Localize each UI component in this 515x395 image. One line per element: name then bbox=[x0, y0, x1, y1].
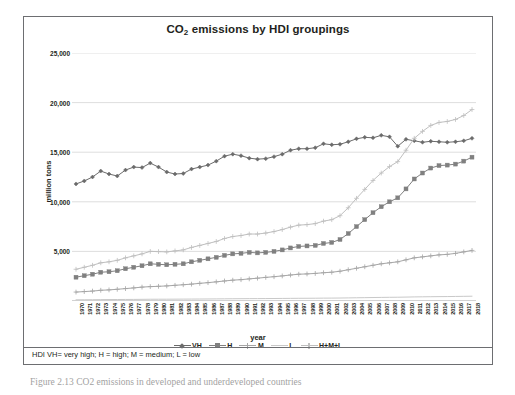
legend-item-l[interactable]: L bbox=[271, 341, 294, 350]
data-point-marker bbox=[107, 287, 112, 292]
data-point-marker bbox=[90, 263, 95, 268]
data-point-marker bbox=[437, 252, 442, 257]
data-point-marker bbox=[173, 283, 178, 288]
data-point-marker bbox=[321, 270, 326, 275]
data-point-marker bbox=[322, 142, 326, 146]
legend-item-m[interactable]: M bbox=[239, 341, 263, 350]
data-point-marker bbox=[379, 205, 383, 209]
x-axis-tick-label: 1993 bbox=[268, 303, 274, 315]
data-point-marker bbox=[231, 152, 235, 156]
data-point-marker bbox=[272, 249, 276, 253]
y-axis-tick-label: 25,000 bbox=[28, 50, 70, 57]
x-axis-tick-label: 1981 bbox=[169, 303, 175, 315]
x-axis-tick-label: 2017 bbox=[466, 303, 472, 315]
legend-item-h[interactable]: H bbox=[209, 341, 233, 350]
data-point-marker bbox=[115, 258, 120, 263]
data-point-marker bbox=[181, 262, 185, 266]
data-point-marker bbox=[115, 269, 119, 273]
data-point-marker bbox=[305, 244, 309, 248]
data-point-marker bbox=[239, 251, 243, 255]
chart-title-main: CO bbox=[166, 23, 183, 35]
x-axis-tick-label: 2011 bbox=[417, 303, 423, 314]
x-axis-tick-label: 1994 bbox=[277, 303, 283, 315]
data-point-marker bbox=[288, 273, 293, 278]
data-point-marker bbox=[362, 264, 367, 269]
data-point-marker bbox=[296, 272, 301, 277]
data-point-marker bbox=[437, 140, 441, 144]
x-axis-tick-label: 1992 bbox=[260, 303, 266, 315]
chart-figure-frame: CO2 emissions by HDI groupings million t… bbox=[23, 16, 493, 365]
data-point-marker bbox=[330, 240, 334, 244]
data-point-marker bbox=[388, 200, 392, 204]
x-axis-tick-label: 2001 bbox=[334, 303, 340, 315]
data-point-marker bbox=[131, 286, 136, 291]
data-point-marker bbox=[223, 253, 227, 257]
data-point-marker bbox=[322, 241, 326, 245]
data-point-marker bbox=[173, 262, 177, 266]
data-point-marker bbox=[173, 249, 178, 254]
data-point-marker bbox=[445, 163, 449, 167]
data-point-marker bbox=[256, 157, 260, 161]
data-point-marker bbox=[379, 133, 383, 137]
chart-footnote: HDI VH= very high; H = high; M = medium;… bbox=[32, 350, 200, 359]
data-point-marker bbox=[173, 172, 177, 176]
x-axis-tick-label: 2009 bbox=[400, 303, 406, 315]
data-point-marker bbox=[98, 260, 103, 265]
data-point-marker bbox=[107, 270, 111, 274]
y-axis-tick-label: 15,000 bbox=[28, 149, 70, 156]
data-point-marker bbox=[363, 135, 367, 139]
data-point-marker bbox=[90, 289, 95, 294]
data-point-marker bbox=[429, 166, 433, 170]
data-point-marker bbox=[321, 219, 326, 224]
data-point-marker bbox=[421, 171, 425, 175]
data-point-marker bbox=[355, 225, 359, 229]
data-point-marker bbox=[197, 281, 202, 286]
x-axis-tick-label: 1970 bbox=[79, 303, 85, 315]
legend-item-h-m-l[interactable]: H+M+L bbox=[301, 341, 343, 350]
data-point-marker bbox=[107, 259, 112, 264]
x-axis-tick-label: 2002 bbox=[343, 303, 349, 315]
data-point-marker bbox=[429, 139, 433, 143]
data-point-marker bbox=[140, 285, 145, 290]
data-point-marker bbox=[264, 250, 268, 254]
legend-swatch-icon bbox=[301, 341, 318, 350]
data-point-marker bbox=[206, 241, 211, 246]
x-axis-tick-label: 2008 bbox=[392, 303, 398, 315]
x-axis-tick-label: 1979 bbox=[153, 303, 159, 315]
data-point-marker bbox=[454, 140, 458, 144]
data-point-marker bbox=[148, 249, 153, 254]
x-axis-tick-label: 1989 bbox=[235, 303, 241, 315]
legend-item-vh[interactable]: VH bbox=[174, 341, 202, 350]
data-point-marker bbox=[239, 154, 243, 158]
x-axis-tick-label: 2014 bbox=[442, 303, 448, 315]
x-axis-tick-label: 1996 bbox=[293, 303, 299, 315]
data-point-marker bbox=[305, 147, 309, 151]
data-point-marker bbox=[296, 223, 301, 228]
data-point-marker bbox=[396, 196, 400, 200]
data-point-marker bbox=[98, 288, 103, 293]
y-axis-tick-label: 10,000 bbox=[28, 198, 70, 205]
data-point-marker bbox=[280, 248, 284, 252]
data-point-marker bbox=[363, 218, 367, 222]
data-point-marker bbox=[330, 143, 334, 147]
data-point-marker bbox=[445, 252, 450, 257]
x-axis-tick-label: 1982 bbox=[178, 303, 184, 315]
series-l bbox=[76, 296, 472, 300]
data-point-marker bbox=[140, 251, 145, 256]
data-point-marker bbox=[115, 287, 120, 292]
x-axis-tick-label: 1997 bbox=[301, 303, 307, 315]
series-line bbox=[76, 157, 472, 277]
data-point-marker bbox=[255, 276, 260, 281]
data-point-marker bbox=[346, 267, 351, 272]
data-point-marker bbox=[470, 136, 474, 140]
x-axis-tick-label: 1983 bbox=[186, 303, 192, 315]
x-axis-tick-label: 1980 bbox=[161, 303, 167, 315]
data-point-marker bbox=[231, 252, 235, 256]
data-point-marker bbox=[247, 156, 251, 160]
data-point-marker bbox=[338, 269, 343, 274]
data-point-marker bbox=[197, 243, 202, 248]
data-point-marker bbox=[264, 157, 268, 161]
data-point-marker bbox=[272, 155, 276, 159]
x-axis-tick-label: 1976 bbox=[128, 303, 134, 315]
x-axis-tick-label: 1978 bbox=[145, 303, 151, 315]
